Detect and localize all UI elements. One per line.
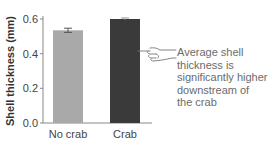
annotation-line: Average shell — [177, 46, 277, 59]
svg-text:0.4: 0.4 — [23, 48, 38, 60]
bar-chart: Shell thickness (mm) 0.0 0.2 0.4 0.6 — [0, 0, 277, 144]
annotation-line: downstream of — [177, 84, 277, 97]
svg-text:Crab: Crab — [113, 128, 137, 140]
annotation-line: thickness is — [177, 59, 277, 72]
pointing-hand-icon — [138, 48, 176, 61]
y-tick-labels: 0.0 0.2 0.4 0.6 — [23, 13, 38, 129]
svg-text:No crab: No crab — [49, 128, 88, 140]
svg-text:0.6: 0.6 — [23, 13, 38, 25]
y-axis-label: Shell thickness (mm) — [4, 16, 16, 126]
bar-no-crab — [53, 30, 83, 123]
annotation-line: the crab — [177, 96, 277, 109]
x-tick-labels: No crab Crab — [49, 128, 137, 140]
annotation-text: Average shell thickness is significantly… — [177, 46, 277, 109]
svg-text:0.0: 0.0 — [23, 117, 38, 129]
annotation-line: significantly higher — [177, 71, 277, 84]
svg-text:0.2: 0.2 — [23, 82, 38, 94]
bar-crab — [110, 19, 140, 123]
